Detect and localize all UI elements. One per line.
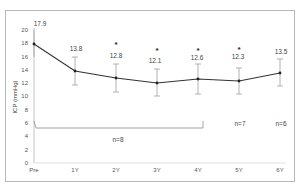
x-tick: 3Y — [153, 167, 160, 173]
significance-star-2y: * — [114, 40, 118, 49]
value-label-6y: 13.5 — [275, 48, 288, 55]
y-tick: 20 — [21, 27, 28, 33]
x-tick: 6Y — [276, 167, 283, 173]
point-4y — [197, 78, 200, 81]
significance-star-3y: * — [155, 46, 159, 55]
x-tick-labels: Pre 1Y 2Y 3Y 4Y 5Y 6Y — [29, 167, 283, 173]
n6-label: n=6 — [275, 120, 286, 127]
n8-label: n=8 — [112, 136, 123, 143]
point-5y — [238, 80, 241, 83]
n8-bracket — [34, 121, 203, 128]
y-tick: 2 — [25, 147, 29, 153]
y-tick: 10 — [21, 93, 28, 99]
y-tick: 14 — [21, 67, 28, 73]
y-tick: 18 — [21, 40, 28, 46]
value-label-pre: 17.9 — [34, 20, 47, 27]
point-pre — [33, 43, 36, 46]
x-tick: 2Y — [112, 167, 119, 173]
y-tick: 8 — [25, 107, 29, 113]
icp-line-chart: 0 2 4 6 8 10 12 14 16 18 20 ICP (mmHg) P… — [0, 0, 303, 189]
y-tick: 12 — [21, 80, 28, 86]
x-tick: 4Y — [194, 167, 201, 173]
x-tick: Pre — [29, 167, 39, 173]
value-label-1y: 13.8 — [70, 45, 83, 52]
y-tick-labels: 0 2 4 6 8 10 12 14 16 18 20 — [21, 27, 28, 166]
value-label-3y: 12.1 — [149, 57, 162, 64]
value-label-5y: 12.3 — [232, 53, 245, 60]
y-axis-label: ICP (mmHg) — [12, 80, 18, 113]
point-1y — [74, 70, 77, 73]
value-labels: 17.9 13.8 12.8 12.1 12.6 12.3 13.5 — [34, 20, 288, 64]
y-tick: 4 — [25, 133, 29, 139]
n7-label: n=7 — [234, 120, 245, 127]
point-2y — [115, 77, 118, 80]
y-tick: 6 — [25, 120, 29, 126]
y-tick: 16 — [21, 54, 28, 60]
x-tick: 1Y — [71, 167, 78, 173]
x-tick: 5Y — [235, 167, 242, 173]
value-label-2y: 12.8 — [110, 52, 123, 59]
significance-markers: * * * * — [114, 40, 241, 55]
y-tick: 0 — [25, 160, 29, 166]
point-3y — [156, 82, 159, 85]
point-6y — [279, 72, 282, 75]
value-label-4y: 12.6 — [191, 54, 204, 61]
